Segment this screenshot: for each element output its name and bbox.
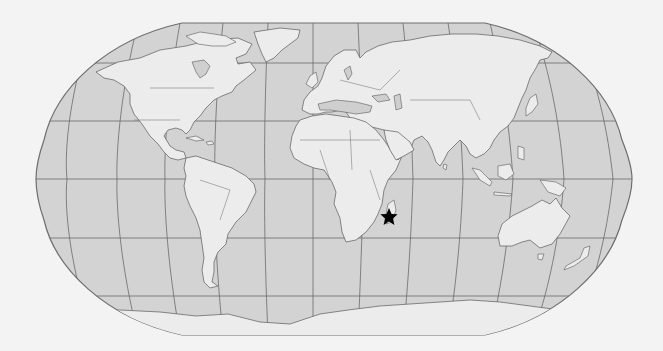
world-map-svg: [0, 0, 663, 351]
philippines: [518, 146, 524, 160]
world-map: [0, 0, 663, 351]
